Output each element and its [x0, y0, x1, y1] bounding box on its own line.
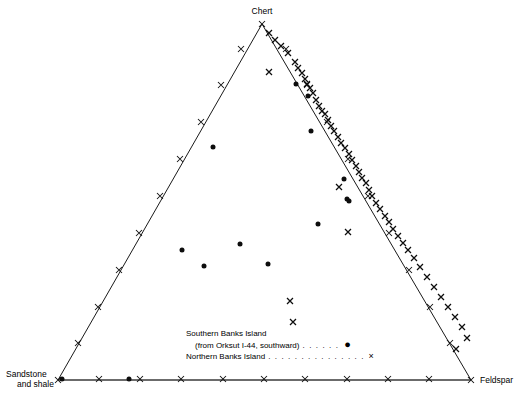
data-point-northern-banks-island: [322, 111, 328, 117]
data-point-northern-banks-island: [431, 284, 437, 290]
data-point-northern-banks-island: [336, 184, 342, 190]
legend-label-northern-banks-island: Northern Banks Island: [186, 352, 265, 363]
legend-leader-dots-southern: . . . . . .: [302, 341, 340, 352]
triangle-edge-right: [262, 24, 471, 380]
apex-label-chert-text: Chert: [252, 6, 273, 16]
data-point-northern-banks-island: [453, 346, 459, 352]
data-point-northern-banks-island: [438, 294, 444, 300]
data-point-southern-banks-island: [294, 82, 299, 87]
edge-tick-left-edge: [177, 156, 183, 162]
data-point-northern-banks-island: [325, 117, 331, 123]
data-point-southern-banks-island: [306, 94, 311, 99]
data-point-northern-banks-island: [302, 76, 308, 82]
edge-tick-bottom-edge: [385, 376, 391, 382]
legend-row-southern-marker: (from Orksut I-44, southward) . . . . . …: [186, 340, 376, 352]
data-point-northern-banks-island: [346, 151, 352, 157]
data-point-northern-banks-island: [295, 65, 301, 71]
data-point-northern-banks-island: [390, 226, 396, 232]
legend-label-orksut-southward: (from Orksut I-44, southward): [186, 341, 299, 352]
data-point-northern-banks-island: [424, 274, 430, 280]
data-point-southern-banks-island: [309, 129, 314, 134]
data-point-northern-banks-island: [445, 304, 451, 310]
data-point-northern-banks-island: [359, 175, 365, 181]
data-point-northern-banks-island: [292, 59, 298, 65]
data-point-northern-banks-island: [377, 206, 383, 212]
legend-symbol-cross-marker: ×: [366, 351, 376, 362]
edge-tick-left-edge: [238, 46, 244, 52]
edge-tick-left-edge: [198, 119, 204, 125]
edge-tick-bottom-edge: [344, 376, 350, 382]
corner-label-sandstone-line2: and shale: [6, 379, 54, 389]
corner-label-sandstone-line1: Sandstone: [6, 369, 47, 379]
data-point-northern-banks-island: [356, 169, 362, 175]
data-point-northern-banks-island: [373, 200, 379, 206]
legend-label-southern-banks-island: Southern Banks Island: [186, 329, 267, 340]
data-point-northern-banks-island: [369, 193, 375, 199]
data-point-northern-banks-island: [452, 314, 458, 320]
data-point-northern-banks-island: [411, 255, 417, 261]
edge-tick-bottom-edge: [302, 376, 308, 382]
data-point-southern-banks-island: [342, 177, 347, 182]
data-point-northern-banks-island: [400, 240, 406, 246]
data-point-northern-banks-island: [405, 247, 411, 253]
data-point-northern-banks-island: [459, 324, 465, 330]
triangle-edges: [58, 24, 471, 380]
legend-symbol-filled-circle-marker: ●: [342, 340, 352, 348]
data-point-northern-banks-island: [304, 81, 310, 87]
data-point-northern-banks-island: [353, 163, 359, 169]
data-point-northern-banks-island: [335, 134, 341, 140]
data-point-northern-banks-island: [299, 70, 305, 76]
data-point-northern-banks-island: [382, 213, 388, 219]
data-point-southern-banks-island: [238, 242, 243, 247]
data-point-northern-banks-island: [313, 97, 319, 103]
data-point-northern-banks-island: [290, 319, 296, 325]
data-point-northern-banks-island: [349, 157, 355, 163]
legend-row-northern-marker: Northern Banks Island . . . . . . . . . …: [186, 351, 376, 363]
data-point-southern-banks-island: [347, 199, 352, 204]
edge-tick-bottom-edge: [137, 376, 143, 382]
data-point-northern-banks-island: [464, 335, 470, 341]
data-point-northern-banks-island: [386, 219, 392, 225]
data-point-southern-banks-island: [316, 222, 321, 227]
edge-tick-bottom-edge: [178, 376, 184, 382]
corner-label-feldspar: Feldspar: [480, 375, 513, 385]
series-northern-banks-island-points: [266, 30, 470, 352]
edge-tick-left-edge: [157, 193, 163, 199]
edge-tick-left-edge: [218, 82, 224, 88]
corner-label-sandstone-and-shale: Sandstone and shale: [6, 369, 54, 389]
apex-label-chert: Chert: [252, 6, 273, 16]
data-point-northern-banks-island: [342, 145, 348, 151]
edge-tick-bottom-edge: [220, 376, 226, 382]
data-point-northern-banks-island: [345, 229, 351, 235]
edge-tick-left-edge: [136, 230, 142, 236]
edge-tick-bottom-edge: [426, 376, 432, 382]
data-point-southern-banks-island: [180, 248, 185, 253]
ternary-diagram-figure: Chert Sandstone and shale Feldspar South…: [0, 0, 524, 404]
edge-tick-bottom-edge: [261, 376, 267, 382]
triangle-edge-left: [58, 24, 262, 380]
data-point-northern-banks-island: [366, 187, 372, 193]
data-point-northern-banks-island: [272, 37, 278, 43]
data-point-southern-banks-island: [60, 377, 65, 382]
data-point-northern-banks-island: [417, 264, 423, 270]
data-point-northern-banks-island: [266, 69, 272, 75]
data-point-northern-banks-island: [287, 298, 293, 304]
edge-tick-vertex-ticks: [259, 21, 265, 27]
data-point-southern-banks-island: [266, 262, 271, 267]
data-point-southern-banks-island: [127, 377, 132, 382]
data-point-northern-banks-island: [363, 180, 369, 186]
data-point-southern-banks-island: [211, 145, 216, 150]
data-point-northern-banks-island: [338, 140, 344, 146]
legend: Southern Banks Island (from Orksut I-44,…: [186, 329, 376, 363]
data-point-northern-banks-island: [395, 233, 401, 239]
edge-tick-bottom-edge: [96, 376, 102, 382]
legend-leader-dots-northern: . . . . . . . . . . . . . . .: [268, 352, 364, 363]
corner-label-feldspar-text: Feldspar: [480, 375, 513, 385]
data-point-southern-banks-island: [202, 264, 207, 269]
